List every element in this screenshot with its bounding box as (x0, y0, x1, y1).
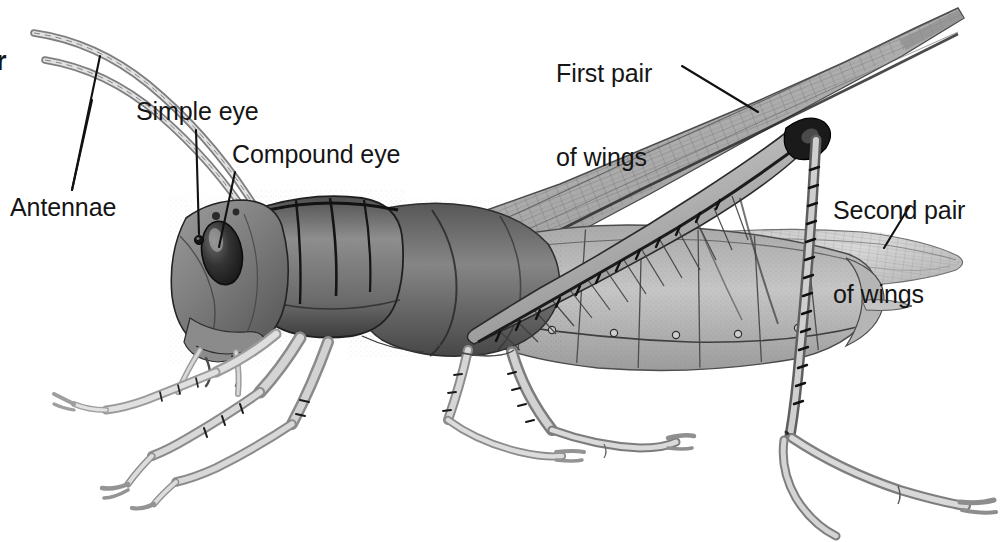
simple-eye (194, 235, 203, 244)
leader-antennae-lower (72, 100, 92, 190)
label-second-pair-line2: of wings (833, 280, 965, 308)
partial-left-text: r (0, 47, 6, 75)
label-first-pair-of-wings: First pair of wings (556, 3, 652, 227)
grasshopper-anatomy-figure: r Antennae Simple eye Compound eye First… (0, 0, 1004, 542)
label-first-pair-line2: of wings (556, 143, 652, 171)
label-second-pair-of-wings: Second pair of wings (833, 140, 965, 364)
label-simple-eye: Simple eye (136, 97, 259, 125)
hindleg-tarsus (792, 438, 996, 513)
label-second-pair-line1: Second pair (833, 196, 965, 224)
label-antennae: Antennae (10, 193, 116, 221)
label-first-pair-line1: First pair (556, 59, 652, 87)
label-compound-eye: Compound eye (232, 140, 400, 168)
